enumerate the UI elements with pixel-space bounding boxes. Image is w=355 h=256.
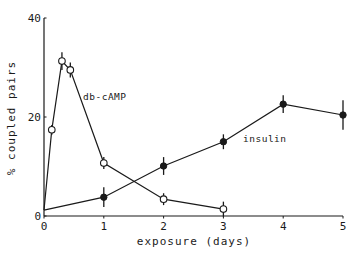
open-circle-marker (59, 58, 66, 65)
y-tick-label: 40 (28, 12, 41, 25)
y-tick-label: 20 (28, 111, 41, 124)
db-camp-label: db-cAMP (83, 91, 127, 102)
x-tick-label: 3 (220, 220, 227, 233)
x-tick-label: 5 (340, 220, 347, 233)
filled-circle-marker (220, 139, 226, 145)
y-axis-label: % coupled pairs (5, 61, 18, 175)
open-circle-marker (67, 67, 74, 74)
axes: 01234502040 (28, 12, 347, 233)
series-db-camp (44, 52, 227, 216)
filled-circle-marker (280, 101, 286, 107)
x-tick-label: 1 (100, 220, 107, 233)
open-circle-marker (220, 206, 227, 213)
series-group (44, 52, 346, 216)
insulin-label: insulin (243, 133, 287, 144)
filled-circle-marker (160, 163, 166, 169)
line-chart: 01234502040 exposure (days) % coupled pa… (0, 0, 355, 256)
y-tick-label: 0 (34, 210, 41, 223)
x-axis-label: exposure (days) (137, 235, 251, 248)
x-tick-label: 0 (41, 220, 48, 233)
open-circle-marker (101, 160, 108, 167)
series-insulin (44, 95, 346, 210)
filled-circle-marker (340, 112, 346, 118)
x-tick-label: 4 (280, 220, 287, 233)
open-circle-marker (48, 127, 55, 134)
open-circle-marker (160, 196, 167, 203)
series-line (44, 61, 223, 210)
filled-circle-marker (101, 194, 107, 200)
x-tick-label: 2 (160, 220, 167, 233)
